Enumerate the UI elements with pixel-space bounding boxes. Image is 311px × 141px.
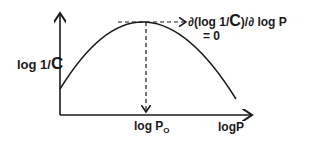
y-axis-label: log 1/C	[17, 55, 63, 72]
optimum-logp-label: log PO	[134, 120, 170, 135]
derivative-equals-zero: = 0	[203, 30, 220, 42]
derivative-label: ∂(log 1/C)/∂ log P	[188, 13, 287, 29]
x-axis-label: logP	[218, 121, 244, 133]
